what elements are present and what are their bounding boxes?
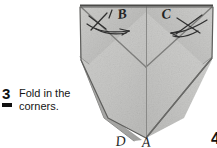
square-bullet-icon bbox=[2, 103, 12, 107]
fold-diagram-svg: B C D A bbox=[76, 0, 217, 148]
step-instruction-block: 3 Fold in the corners. bbox=[2, 86, 78, 112]
step-marker: 3 bbox=[2, 86, 16, 107]
label-d: D bbox=[114, 133, 127, 148]
label-b: B bbox=[115, 6, 127, 22]
step-instruction-text: Fold in the corners. bbox=[16, 86, 78, 112]
step-number: 3 bbox=[2, 87, 10, 101]
label-a: A bbox=[140, 134, 151, 148]
next-step-number: 4 bbox=[211, 131, 217, 147]
fold-diagram: B C D A bbox=[76, 0, 217, 148]
